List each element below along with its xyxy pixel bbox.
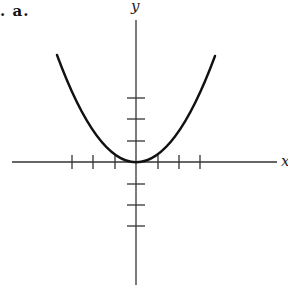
graph bbox=[0, 0, 288, 285]
